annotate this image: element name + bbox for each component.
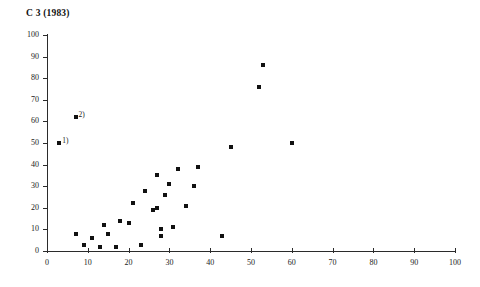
data-point	[167, 182, 171, 186]
y-tick-label-70: 70	[17, 95, 39, 104]
data-point	[102, 223, 106, 227]
data-point	[155, 206, 159, 210]
x-tick-label-40: 40	[198, 258, 222, 267]
data-point	[290, 141, 294, 145]
data-point	[155, 173, 159, 177]
data-point	[114, 245, 118, 249]
data-point	[131, 201, 135, 205]
data-point	[143, 189, 147, 193]
x-tick-label-30: 30	[157, 258, 181, 267]
x-tick-50	[251, 248, 252, 253]
data-point	[98, 245, 102, 249]
y-tick-70	[43, 100, 48, 101]
x-tick-label-70: 70	[321, 258, 345, 267]
data-point	[184, 204, 188, 208]
data-point	[127, 221, 131, 225]
data-point-annotation: 1)	[62, 136, 68, 145]
y-tick-label-30: 30	[17, 181, 39, 190]
data-point	[176, 167, 180, 171]
data-point	[74, 232, 78, 236]
y-tick-label-100: 100	[17, 30, 39, 39]
y-tick-label-0: 0	[17, 246, 39, 255]
data-point	[159, 227, 163, 231]
data-point	[196, 165, 200, 169]
data-point	[261, 63, 265, 67]
y-tick-label-10: 10	[17, 224, 39, 233]
x-tick-60	[292, 248, 293, 253]
x-tick-90	[414, 248, 415, 253]
x-tick-70	[333, 248, 334, 253]
x-tick-label-100: 100	[443, 258, 467, 267]
data-point	[163, 193, 167, 197]
y-tick-10	[43, 229, 48, 230]
data-point	[90, 236, 94, 240]
x-tick-100	[455, 248, 456, 253]
data-point	[118, 219, 122, 223]
y-tick-80	[43, 78, 48, 79]
y-tick-label-50: 50	[17, 138, 39, 147]
y-tick-90	[43, 57, 48, 58]
y-tick-label-80: 80	[17, 73, 39, 82]
y-tick-30	[43, 186, 48, 187]
x-tick-20	[129, 248, 130, 253]
x-tick-label-60: 60	[280, 258, 304, 267]
data-point	[106, 232, 110, 236]
scatter-plot-figure: C 3 (1983) 0102030405060708090100 010203…	[0, 0, 480, 287]
data-point	[82, 243, 86, 247]
x-tick-label-0: 0	[35, 258, 59, 267]
x-tick-label-90: 90	[402, 258, 426, 267]
x-tick-40	[210, 248, 211, 253]
data-point	[57, 141, 61, 145]
x-tick-30	[169, 248, 170, 253]
x-tick-80	[373, 248, 374, 253]
data-point	[257, 85, 261, 89]
y-tick-100	[43, 35, 48, 36]
data-point	[74, 115, 78, 119]
y-tick-60	[43, 121, 48, 122]
y-tick-label-20: 20	[17, 203, 39, 212]
data-point-annotation: 2)	[79, 110, 85, 119]
x-tick-label-80: 80	[361, 258, 385, 267]
y-tick-40	[43, 165, 48, 166]
y-tick-label-40: 40	[17, 160, 39, 169]
y-tick-50	[43, 143, 48, 144]
data-point	[229, 145, 233, 149]
x-tick-label-20: 20	[117, 258, 141, 267]
x-tick-label-10: 10	[76, 258, 100, 267]
x-tick-0	[47, 248, 48, 253]
data-point	[159, 234, 163, 238]
data-point	[220, 234, 224, 238]
data-point	[139, 243, 143, 247]
data-point	[192, 184, 196, 188]
y-tick-label-90: 90	[17, 52, 39, 61]
plot-area: 0102030405060708090100 01020304050607080…	[0, 0, 480, 287]
data-point	[171, 225, 175, 229]
x-tick-10	[88, 248, 89, 253]
y-tick-label-60: 60	[17, 116, 39, 125]
x-tick-label-50: 50	[239, 258, 263, 267]
y-tick-20	[43, 208, 48, 209]
